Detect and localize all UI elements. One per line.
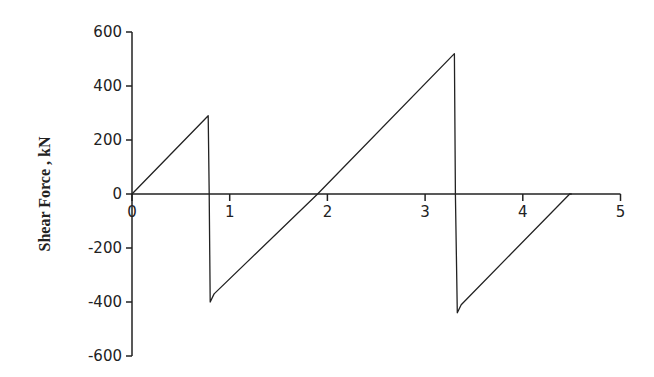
- x-tick-label: 5: [616, 203, 626, 221]
- y-tick-label: 400: [93, 77, 122, 95]
- y-tick-label: 0: [112, 185, 122, 203]
- x-tick-label: 1: [225, 203, 235, 221]
- y-tick-label: 200: [93, 131, 122, 149]
- x-tick-label: 4: [518, 203, 528, 221]
- y-tick-label: 600: [93, 23, 122, 41]
- x-tick-label: 0: [127, 203, 137, 221]
- shear-force-chart: 6004002000-200-400-600 012345 Shear Forc…: [0, 0, 654, 377]
- data-series: [132, 54, 572, 313]
- y-tick-label: -600: [88, 347, 122, 365]
- y-tick-label: -400: [88, 293, 122, 311]
- y-tick-label: -200: [88, 239, 122, 257]
- x-tick-label: 3: [420, 203, 430, 221]
- x-axis: 012345: [127, 194, 625, 221]
- y-axis: 6004002000-200-400-600: [88, 23, 132, 365]
- x-tick-label: 2: [323, 203, 333, 221]
- y-axis-label: Shear Force , kN: [36, 136, 53, 251]
- shear-force-line: [132, 54, 572, 313]
